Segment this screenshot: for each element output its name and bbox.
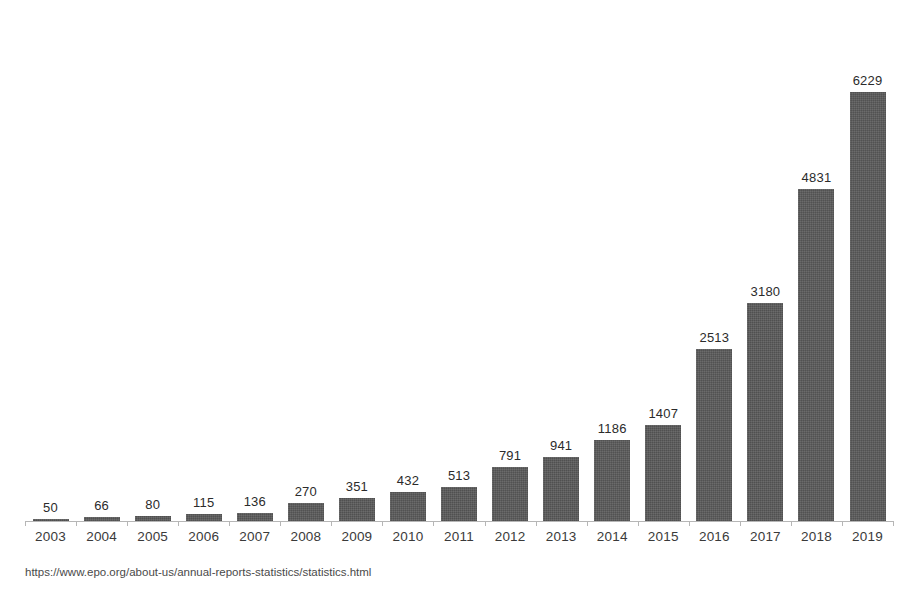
bar-value-label: 3180 <box>751 285 781 298</box>
bar-value-label: 941 <box>550 439 572 452</box>
bar-column[interactable]: 6229 <box>842 30 893 522</box>
bar-value-label: 1407 <box>648 407 678 420</box>
bar-value-label: 270 <box>295 485 317 498</box>
bar-column[interactable]: 2513 <box>689 30 740 522</box>
axis-tick <box>76 521 77 526</box>
bar-column[interactable]: 791 <box>485 30 536 522</box>
x-tick-label: 2015 <box>638 529 689 544</box>
bar-value-label: 6229 <box>853 74 883 87</box>
source-url-caption: https://www.epo.org/about-us/annual-repo… <box>25 566 371 578</box>
chart-figure: 5066801151362703514325137919411186140725… <box>0 0 916 599</box>
bar-column[interactable]: 136 <box>229 30 280 522</box>
bar-column[interactable]: 941 <box>536 30 587 522</box>
bar-value-label: 432 <box>397 474 419 487</box>
x-tick-label: 2003 <box>25 529 76 544</box>
bar-column[interactable]: 115 <box>178 30 229 522</box>
bar-value-label: 80 <box>145 498 160 511</box>
bar-value-label: 66 <box>94 499 109 512</box>
x-tick-label: 2007 <box>229 529 280 544</box>
bar-value-label: 136 <box>244 495 266 508</box>
bar-value-label: 50 <box>43 501 58 514</box>
axis-tick <box>485 521 486 526</box>
bar[interactable] <box>441 487 477 522</box>
bar-column[interactable]: 270 <box>280 30 331 522</box>
axis-tick <box>587 521 588 526</box>
x-tick-label: 2019 <box>842 529 893 544</box>
bar[interactable] <box>747 303 783 522</box>
bar-column[interactable]: 1186 <box>587 30 638 522</box>
axis-tick <box>433 521 434 526</box>
axis-tick <box>280 521 281 526</box>
x-tick-label: 2017 <box>740 529 791 544</box>
axis-tick <box>331 521 332 526</box>
bar[interactable] <box>850 92 886 522</box>
x-tick-label: 2004 <box>76 529 127 544</box>
bar-column[interactable]: 80 <box>127 30 178 522</box>
bar-value-label: 1186 <box>598 422 627 435</box>
x-axis-ticks <box>25 521 893 526</box>
plot-area: 5066801151362703514325137919411186140725… <box>25 30 893 522</box>
bar-value-label: 791 <box>499 449 521 462</box>
axis-tick <box>893 521 894 526</box>
bar[interactable] <box>645 425 681 522</box>
x-axis-labels: 2003200420052006200720082009201020112012… <box>25 529 893 544</box>
bar-column[interactable]: 432 <box>382 30 433 522</box>
x-tick-label: 2011 <box>434 529 485 544</box>
bar-column[interactable]: 4831 <box>791 30 842 522</box>
bar-column[interactable]: 66 <box>76 30 127 522</box>
bar-column[interactable]: 50 <box>25 30 76 522</box>
axis-tick <box>536 521 537 526</box>
axis-tick <box>25 521 26 526</box>
bar-value-label: 351 <box>346 480 368 493</box>
bar-value-label: 4831 <box>802 171 832 184</box>
bar-value-label: 513 <box>448 469 470 482</box>
axis-tick <box>842 521 843 526</box>
axis-tick <box>178 521 179 526</box>
bar[interactable] <box>696 349 732 522</box>
bar-column[interactable]: 3180 <box>740 30 791 522</box>
bar[interactable] <box>543 457 579 522</box>
bar[interactable] <box>798 189 834 522</box>
axis-tick <box>382 521 383 526</box>
x-tick-label: 2009 <box>331 529 382 544</box>
x-tick-label: 2012 <box>485 529 536 544</box>
axis-tick <box>229 521 230 526</box>
bar[interactable] <box>390 492 426 522</box>
axis-tick <box>638 521 639 526</box>
bar[interactable] <box>594 440 630 522</box>
x-tick-label: 2016 <box>689 529 740 544</box>
x-tick-label: 2008 <box>280 529 331 544</box>
x-tick-label: 2013 <box>536 529 587 544</box>
axis-tick <box>740 521 741 526</box>
bar[interactable] <box>288 503 324 522</box>
chart-title-clipped <box>0 0 916 9</box>
bar-series: 5066801151362703514325137919411186140725… <box>25 30 893 522</box>
bar-value-label: 115 <box>193 496 214 509</box>
x-tick-label: 2005 <box>127 529 178 544</box>
bar[interactable] <box>492 467 528 522</box>
bar-column[interactable]: 1407 <box>638 30 689 522</box>
bar-column[interactable]: 513 <box>434 30 485 522</box>
axis-tick <box>689 521 690 526</box>
x-tick-label: 2006 <box>178 529 229 544</box>
bar-column[interactable]: 351 <box>331 30 382 522</box>
axis-tick <box>791 521 792 526</box>
bar-value-label: 2513 <box>699 331 729 344</box>
bar[interactable] <box>339 498 375 522</box>
x-tick-label: 2010 <box>382 529 433 544</box>
x-tick-label: 2014 <box>587 529 638 544</box>
axis-tick <box>127 521 128 526</box>
x-tick-label: 2018 <box>791 529 842 544</box>
